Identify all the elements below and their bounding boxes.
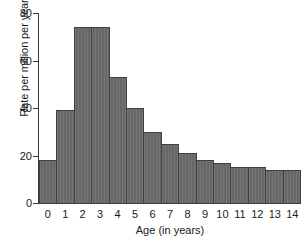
bar — [283, 170, 301, 203]
bar — [178, 153, 196, 203]
x-axis-tick-label: 5 — [126, 206, 143, 222]
x-axis-tick-label: 8 — [179, 206, 196, 222]
bar — [91, 27, 109, 203]
bar — [109, 77, 127, 203]
x-axis-tick-label: 6 — [144, 206, 161, 222]
bar-series — [39, 13, 301, 203]
y-axis-tick-label: 80 — [20, 7, 32, 19]
x-axis-tick-label: 1 — [56, 206, 73, 222]
bar — [126, 108, 144, 203]
bar — [213, 163, 231, 203]
x-axis-tick-label: 10 — [214, 206, 231, 222]
x-axis-tick-label: 9 — [196, 206, 213, 222]
x-axis-tick-label: 14 — [284, 206, 301, 222]
x-axis-tick-label: 4 — [109, 206, 126, 222]
x-axis-tick-label: 12 — [249, 206, 266, 222]
plot-area — [39, 13, 301, 203]
x-axis-tick-label: 7 — [161, 206, 178, 222]
bar — [196, 160, 214, 203]
bar — [248, 167, 266, 203]
x-axis-tick-labels: 01234567891011121314 — [39, 206, 301, 222]
histogram-chart: Rate per million per year 020406080 0123… — [0, 0, 308, 244]
x-axis-tick-label: 2 — [74, 206, 91, 222]
x-axis-tick-label: 0 — [39, 206, 56, 222]
x-axis-tick-label: 11 — [231, 206, 248, 222]
x-axis-tick-label: 13 — [266, 206, 283, 222]
x-axis-spine — [38, 203, 301, 204]
bar — [230, 167, 248, 203]
bar — [56, 110, 74, 203]
x-axis-title: Age (in years) — [39, 224, 301, 236]
bar — [265, 170, 283, 203]
y-axis-tick-label: 40 — [20, 102, 32, 114]
x-axis-tick-label: 3 — [91, 206, 108, 222]
bar — [161, 144, 179, 203]
bar — [143, 132, 161, 203]
y-axis-tick-labels: 020406080 — [0, 0, 36, 244]
bar — [74, 27, 92, 203]
bar — [39, 160, 57, 203]
y-axis-tick-label: 0 — [26, 197, 32, 209]
y-axis-tick-label: 20 — [20, 150, 32, 162]
y-axis-tick-label: 60 — [20, 55, 32, 67]
